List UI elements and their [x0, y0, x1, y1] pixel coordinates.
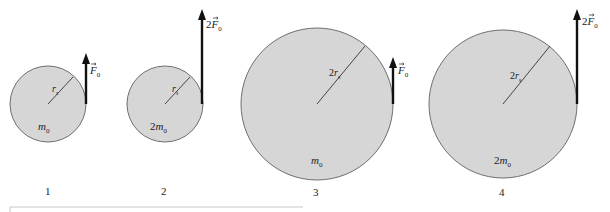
disk-4-force-label: 2F0: [582, 15, 598, 30]
arrowhead-icon: [389, 57, 397, 68]
arrowhead-icon: [198, 9, 206, 20]
disk-3-index: 3: [313, 186, 319, 198]
disk-2-force-label: 2F0: [206, 18, 222, 33]
disk-1-force-label: F0: [89, 64, 101, 79]
disk-1-index: 1: [45, 185, 51, 197]
disk-2: 2F0 rs 2m0 2: [127, 9, 222, 197]
disk-1: F0 rs m0 1: [10, 53, 101, 197]
rotating-disks-diagram: F0 rs m0 1 2F0 rs 2m0 2 F0 2rs m0 3 2F0 …: [0, 0, 610, 212]
disk-4: 2F0 2rs 2m0 4: [429, 9, 598, 198]
disk-3: F0 2rs m0 3: [241, 28, 409, 198]
disk-3-force-label: F0: [397, 64, 409, 79]
frame-divider: [10, 207, 303, 212]
arrowhead-icon: [82, 53, 90, 64]
arrowhead-icon: [573, 9, 581, 20]
disk-4-index: 4: [499, 186, 505, 198]
disk-2-index: 2: [161, 185, 167, 197]
